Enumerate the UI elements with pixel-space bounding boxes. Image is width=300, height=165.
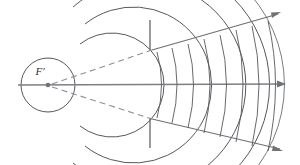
cone-ray-group (152, 12, 283, 151)
wavefront-arc-5 (60, 0, 270, 165)
cone-wavefront-5 (220, 35, 227, 137)
focus-group: F′ (34, 65, 50, 87)
upper-construction-line (52, 50, 152, 84)
cone-wavefront-group (157, 21, 276, 151)
focus-point-dot (46, 83, 51, 88)
lower-ray-arrowhead (272, 146, 283, 152)
lower-construction-line (52, 87, 152, 119)
upper-ray-arrowhead (271, 12, 281, 18)
wavefront-arc-6 (40, 0, 284, 165)
cone-wavefront-3 (188, 44, 194, 128)
lower-ray (152, 119, 280, 149)
cone-wavefront-6 (236, 30, 243, 142)
cone-wavefront-2 (172, 48, 177, 123)
cone-wavefront-7 (252, 26, 259, 146)
focus-label: F′ (34, 65, 45, 77)
wavefront-arc-4 (73, 0, 246, 165)
wavefront-diagram: F′ (0, 0, 300, 165)
upper-ray (152, 14, 278, 50)
optical-axis (18, 84, 282, 85)
